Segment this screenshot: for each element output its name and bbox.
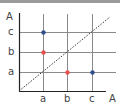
point-a-c <box>41 30 45 34</box>
point-a-b <box>41 50 45 54</box>
y-tick-c: c <box>8 27 14 37</box>
y-tick-a: a <box>8 67 14 77</box>
diagonal-line <box>19 17 110 91</box>
point-c-a <box>90 70 94 74</box>
x-axis-label: A <box>109 94 116 104</box>
relation-diagram <box>0 0 120 105</box>
x-tick-c: c <box>89 94 95 104</box>
point-b-a <box>65 70 69 74</box>
x-tick-b: b <box>64 94 70 104</box>
y-axis-label: A <box>6 12 13 22</box>
x-tick-a: a <box>40 94 46 104</box>
y-tick-b: b <box>8 47 14 57</box>
